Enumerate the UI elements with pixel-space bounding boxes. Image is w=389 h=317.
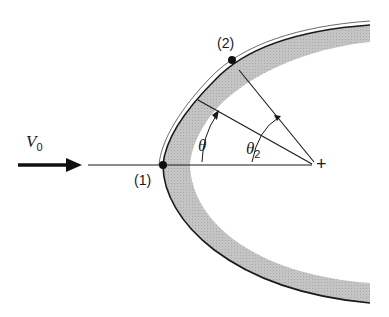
velocity-label: V0 [26, 133, 43, 153]
point-1-dot [159, 161, 167, 169]
theta-label: θ [198, 137, 206, 154]
point-1-label: (1) [134, 173, 151, 187]
diagram-canvas: V0 (1) (2) θ θ2 + [0, 0, 389, 317]
point-2-dot [228, 56, 236, 64]
point-2-label: (2) [217, 36, 234, 50]
theta2-label: θ2 [246, 140, 260, 160]
velocity-arrow-head [66, 158, 82, 172]
diagram-figure [0, 0, 389, 317]
center-mark: + [316, 155, 327, 173]
body-wall-band [163, 25, 370, 303]
